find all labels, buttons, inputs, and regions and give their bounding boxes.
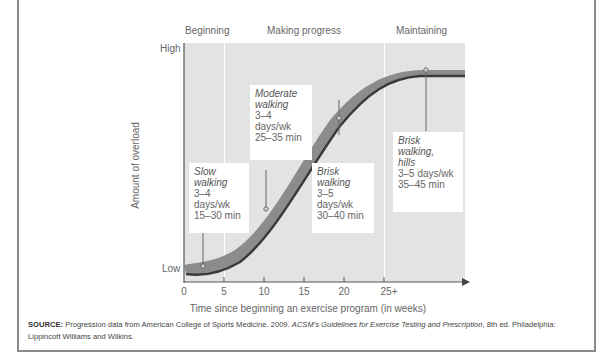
duration-label: 25–35 min [255,132,307,143]
frequency-label: 3–4 days/wk [194,188,244,210]
annotation-slow-walking: Slow walking 3–4 days/wk 15–30 min [189,163,249,233]
activity-label: Moderate [255,88,307,99]
activity-label: Brisk [398,135,458,146]
x-tick-10: 10 [258,286,269,297]
activity-label: walking [255,99,307,110]
activity-label: Brisk [317,166,369,177]
x-tick-5: 5 [221,286,227,297]
frequency-label: 3–4 days/wk [255,110,307,132]
activity-label: walking, [398,146,458,157]
annotation-moderate-walking: Moderate walking 3–4 days/wk 25–35 min [250,85,312,160]
activity-label: Slow [194,166,244,177]
frequency-label: 3–5 days/wk [317,188,369,210]
duration-label: 30–40 min [317,210,369,221]
x-tick-0: 0 [181,286,187,297]
frequency-label: 3–5 days/wk [398,168,458,179]
x-tick-20: 20 [338,286,349,297]
activity-label: walking [194,177,244,188]
x-axis-title: Time since beginning an exercise program… [0,303,616,314]
source-note: SOURCE: Progression data from American C… [28,319,588,343]
duration-label: 35–45 min [398,179,458,190]
source-title: ACSM's Guidelines for Exercise Testing a… [292,320,483,329]
annotation-brisk-walking-hills: Brisk walking, hills 3–5 days/wk 35–45 m… [393,132,463,212]
x-tick-25plus: 25+ [381,286,398,297]
activity-label: walking [317,177,369,188]
annotation-brisk-walking: Brisk walking 3–5 days/wk 30–40 min [312,163,374,233]
x-tick-15: 15 [298,286,309,297]
activity-label: hills [398,157,458,168]
source-text: Progression data from American College o… [63,320,292,329]
source-label: SOURCE: [28,320,63,329]
duration-label: 15–30 min [194,210,244,221]
